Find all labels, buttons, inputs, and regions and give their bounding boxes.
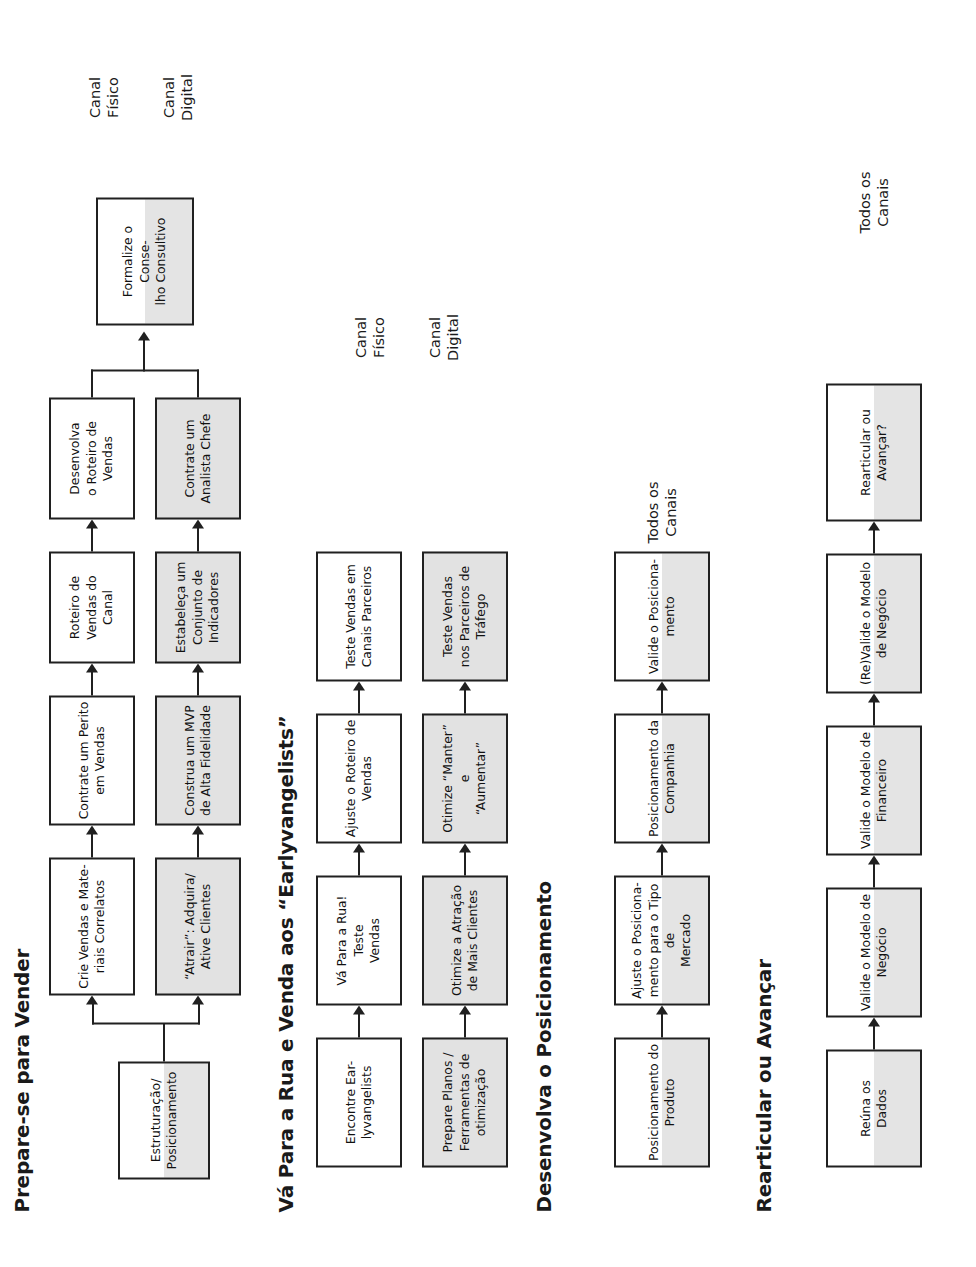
box-posicionamento-do-produto[interactable]: Posicionamento do Produto: [614, 1037, 710, 1167]
section-prepare-se-para-vender: Prepare-se para Vender Canal Físico Cana…: [0, 0, 260, 1267]
box-revalide-modelo-negocio[interactable]: (Re)Valide o Modelo de Negócio: [826, 553, 922, 693]
arrow-s4-1-2: [873, 1019, 875, 1049]
box-desenvolva-roteiro-vendas[interactable]: Desenvolva o Roteiro de Vendas: [49, 397, 135, 519]
section-title-4: Rearticular ou Avançar: [752, 959, 776, 1212]
box-estabeleca-conjunto-indicadores[interactable]: Estabeleça um Conjunto de Indicadores: [155, 551, 241, 663]
box-estruturacao-posicionamento[interactable]: Estruturação/ Posicionamento: [118, 1061, 210, 1179]
connector-start-h: [163, 1023, 165, 1061]
band-label-canal-digital-1: Canal Digital: [160, 47, 196, 147]
arrow-s2-d1-d2: [464, 1007, 466, 1037]
box-teste-vendas-canais-parceiros[interactable]: Teste Vendas em Canais Parceiros: [316, 551, 402, 681]
band-label-todos-os-canais-4: Todos os Canais: [856, 147, 892, 257]
arrow-s3-3-4: [661, 683, 663, 713]
connector-merge-down: [197, 369, 199, 397]
connector-merge-up: [91, 369, 93, 397]
box-crie-vendas-materiais[interactable]: Crie Vendas e Mate- riais Correlatos: [49, 857, 135, 995]
connector-start-down: [198, 1002, 200, 1024]
arrow-merge-end: [143, 333, 145, 371]
section-title-1: Prepare-se para Vender: [10, 948, 34, 1212]
box-rearticular-ou-avancar[interactable]: Rearticular ou Avançar?: [826, 383, 922, 521]
connector-start-up: [92, 1002, 94, 1024]
arrow-d3-d4: [197, 521, 199, 551]
box-posicionamento-da-companhia[interactable]: Posicionamento da Companhia: [614, 713, 710, 843]
box-prepare-planos-ferramentas[interactable]: Prepare Planos / Ferramentas de otimizaç…: [422, 1037, 508, 1167]
section-title-2: Vá Para a Rua e Venda aos “Earlyvangelis…: [274, 715, 298, 1212]
arrow-s4-2-3: [873, 857, 875, 887]
band-label-canal-digital-2: Canal Digital: [426, 287, 462, 387]
box-construa-mvp-alta-fidelidade[interactable]: Construa um MVP de Alta Fidelidade: [155, 695, 241, 825]
box-va-para-rua-teste-vendas[interactable]: Vá Para a Rua! Teste Vendas: [316, 875, 402, 1005]
box-valide-modelo-financeiro[interactable]: Valide o Modelo de Financeiro: [826, 725, 922, 855]
arrow-p1-p2: [91, 827, 93, 857]
section-desenvolva-o-posicionamento: Desenvolva o Posicionamento Todos os Can…: [524, 0, 744, 1267]
box-valide-o-posicionamento[interactable]: Valide o Posiciona- mento: [614, 551, 710, 681]
box-teste-vendas-parceiros-trafego[interactable]: Teste Vendas nos Parceiros de Tráfego: [422, 551, 508, 681]
box-formalize-conselho-consultivo[interactable]: Formalize o Conse- lho Consultivo: [96, 197, 194, 325]
arrow-s3-1-2: [661, 1007, 663, 1037]
arrow-s2-d2-d3: [464, 845, 466, 875]
section-title-3: Desenvolva o Posicionamento: [532, 880, 556, 1212]
arrow-s3-2-3: [661, 845, 663, 875]
arrow-s2-d3-d4: [464, 683, 466, 713]
section-va-para-a-rua: Vá Para a Rua e Venda aos “Earlyvangelis…: [266, 0, 516, 1267]
arrow-s4-4-5: [873, 523, 875, 553]
box-ajuste-posicionamento-tipo-mercado[interactable]: Ajuste o Posiciona- mento para o Tipo de…: [614, 875, 710, 1005]
box-contrate-analista-chefe[interactable]: Contrate um Analista Chefe: [155, 397, 241, 519]
box-atrair-adquira-ative[interactable]: “Atrair”: Adquira/ Ative Clientes: [155, 857, 241, 995]
box-valide-modelo-negocio[interactable]: Valide o Modelo de Negócio: [826, 887, 922, 1017]
arrow-s2-p3-p4: [358, 683, 360, 713]
arrow-d2-d3: [197, 665, 199, 695]
arrow-s4-3-4: [873, 695, 875, 725]
box-contrate-perito-vendas[interactable]: Contrate um Perito em Vendas: [49, 695, 135, 825]
section-rearticular-ou-avancar: Rearticular ou Avançar Todos os Canais R…: [744, 0, 976, 1267]
arrow-p3-p4: [91, 521, 93, 551]
connector-start-v: [92, 1022, 200, 1024]
band-label-canal-fisico-2: Canal Físico: [352, 287, 388, 387]
box-encontre-earlyvangelists[interactable]: Encontre Ear- lyvangelists: [316, 1037, 402, 1167]
box-otimize-atracao-mais-clientes[interactable]: Otimize a Atração de Mais Clientes: [422, 875, 508, 1005]
band-label-canal-fisico-1: Canal Físico: [86, 47, 122, 147]
diagram-canvas: Prepare-se para Vender Canal Físico Cana…: [0, 0, 976, 1267]
box-ajuste-roteiro-vendas[interactable]: Ajuste o Roteiro de Vendas: [316, 713, 402, 843]
arrow-d1-d2: [197, 827, 199, 857]
arrow-p2-p3: [91, 665, 93, 695]
box-reuna-os-dados[interactable]: Reúna os Dados: [826, 1049, 922, 1167]
box-roteiro-vendas-canal[interactable]: Roteiro de Vendas do Canal: [49, 551, 135, 663]
arrowhead-start-down: [192, 995, 204, 1004]
band-label-todos-os-canais-3: Todos os Canais: [644, 457, 680, 567]
arrow-s2-p1-p2: [358, 1007, 360, 1037]
box-otimize-manter-aumentar[interactable]: Otimize “Manter” e “Aumentar”: [422, 713, 508, 843]
arrow-s2-p2-p3: [358, 845, 360, 875]
arrowhead-start-up: [86, 995, 98, 1004]
